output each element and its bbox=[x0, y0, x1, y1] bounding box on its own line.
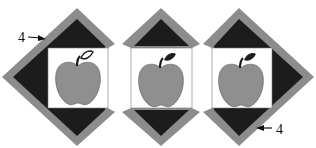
label-number: 4 bbox=[276, 122, 283, 137]
label-number: 4 bbox=[18, 30, 25, 45]
block-right bbox=[203, 8, 314, 146]
block-center bbox=[122, 8, 200, 146]
quilt-diagram: 4 4 bbox=[0, 0, 316, 148]
block-left bbox=[2, 8, 115, 146]
